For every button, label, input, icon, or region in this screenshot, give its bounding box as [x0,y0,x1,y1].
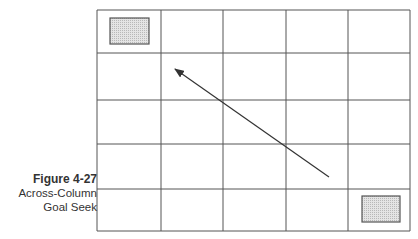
caption-line-2: Goal Seek [18,200,97,214]
goal-seek-arrow [175,69,329,177]
caption-line-1: Across-Column [18,186,97,200]
figure-caption: Figure 4-27 Across-Column Goal Seek [18,172,97,214]
highlighted-cells [110,18,400,222]
highlighted-cell [362,196,400,222]
highlighted-cell [110,18,149,44]
figure-label: Figure 4-27 [18,172,97,186]
